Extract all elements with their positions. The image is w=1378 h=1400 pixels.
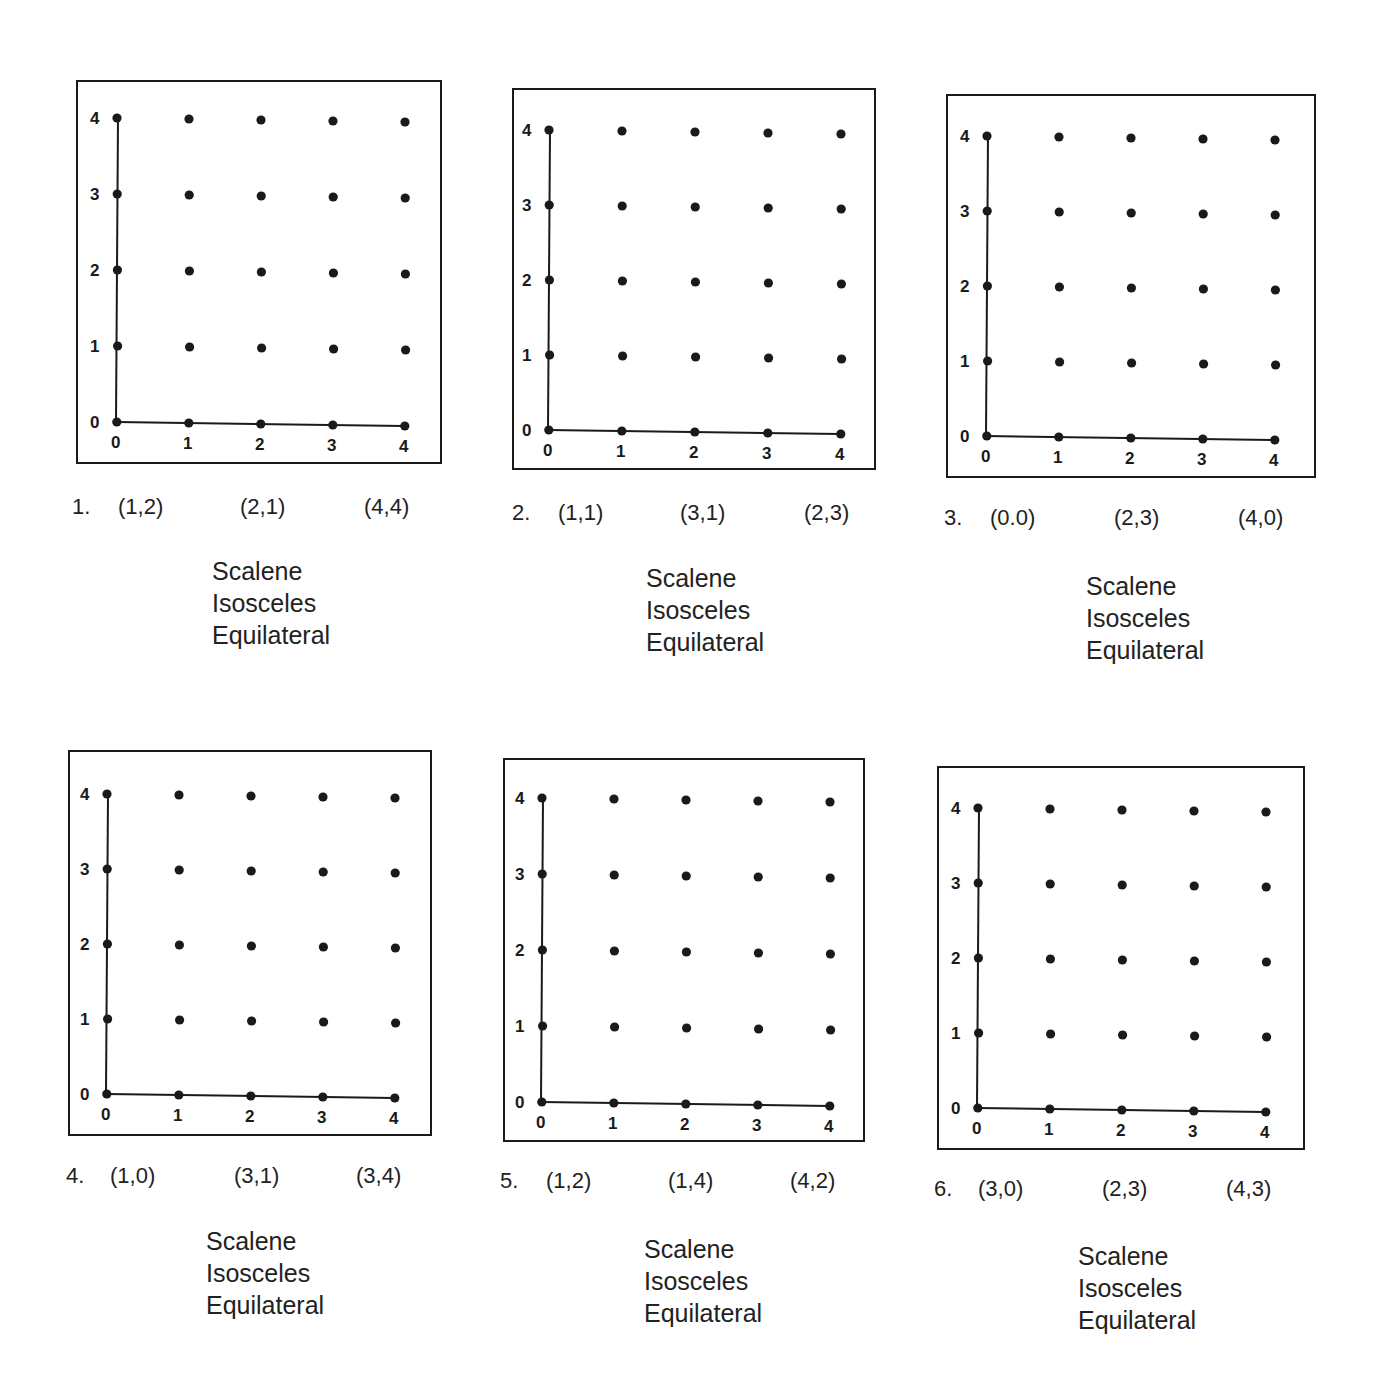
grid-dot[interactable] bbox=[328, 420, 337, 429]
grid-dot[interactable] bbox=[1127, 358, 1136, 367]
grid-dot[interactable] bbox=[257, 343, 266, 352]
grid-dot[interactable] bbox=[1054, 432, 1063, 441]
grid-dot[interactable] bbox=[836, 429, 845, 438]
grid-dot[interactable] bbox=[753, 1100, 762, 1109]
grid-dot[interactable] bbox=[545, 200, 554, 209]
grid-dot[interactable] bbox=[174, 1090, 183, 1099]
grid-dot[interactable] bbox=[609, 1098, 618, 1107]
grid-dot[interactable] bbox=[175, 1015, 184, 1024]
choice-scalene[interactable]: Scalene bbox=[644, 1233, 762, 1265]
grid-dot[interactable] bbox=[544, 125, 553, 134]
grid-dot[interactable] bbox=[1046, 1029, 1055, 1038]
grid-dot[interactable] bbox=[754, 948, 763, 957]
grid-dot[interactable] bbox=[246, 791, 255, 800]
grid-dot[interactable] bbox=[618, 276, 627, 285]
grid-dot[interactable] bbox=[610, 1022, 619, 1031]
grid-dot[interactable] bbox=[329, 344, 338, 353]
grid-dot[interactable] bbox=[1118, 1030, 1127, 1039]
grid-dot[interactable] bbox=[184, 418, 193, 427]
grid-dot[interactable] bbox=[826, 873, 835, 882]
grid-dot[interactable] bbox=[983, 206, 992, 215]
grid-dot[interactable] bbox=[1199, 359, 1208, 368]
grid-dot[interactable] bbox=[1271, 285, 1280, 294]
grid-dot[interactable] bbox=[1199, 284, 1208, 293]
grid-dot[interactable] bbox=[544, 425, 553, 434]
grid-dot[interactable] bbox=[1270, 435, 1279, 444]
grid-dot[interactable] bbox=[682, 871, 691, 880]
grid-dot[interactable] bbox=[690, 127, 699, 136]
choice-equilateral[interactable]: Equilateral bbox=[212, 619, 330, 651]
grid-dot[interactable] bbox=[682, 947, 691, 956]
grid-dot[interactable] bbox=[329, 268, 338, 277]
grid-dot[interactable] bbox=[837, 279, 846, 288]
grid-dot[interactable] bbox=[754, 872, 763, 881]
choice-isosceles[interactable]: Isosceles bbox=[206, 1257, 324, 1289]
grid-dot[interactable] bbox=[690, 427, 699, 436]
grid-dot[interactable] bbox=[617, 126, 626, 135]
grid-dot[interactable] bbox=[328, 116, 337, 125]
grid-dot[interactable] bbox=[257, 267, 266, 276]
choice-isosceles[interactable]: Isosceles bbox=[1078, 1272, 1196, 1304]
grid-dot[interactable] bbox=[763, 428, 772, 437]
grid-dot[interactable] bbox=[246, 1091, 255, 1100]
grid-dot[interactable] bbox=[1045, 1104, 1054, 1113]
grid-dot[interactable] bbox=[974, 953, 983, 962]
grid-dot[interactable] bbox=[391, 1018, 400, 1027]
choice-scalene[interactable]: Scalene bbox=[206, 1225, 324, 1257]
grid-dot[interactable] bbox=[973, 803, 982, 812]
grid-dot[interactable] bbox=[318, 792, 327, 801]
grid-dot[interactable] bbox=[318, 1092, 327, 1101]
grid-dot[interactable] bbox=[1270, 135, 1279, 144]
grid-dot[interactable] bbox=[1198, 434, 1207, 443]
grid-dot[interactable] bbox=[319, 942, 328, 951]
choice-scalene[interactable]: Scalene bbox=[212, 555, 330, 587]
grid-dot[interactable] bbox=[1262, 1032, 1271, 1041]
grid-dot[interactable] bbox=[1046, 879, 1055, 888]
grid-dot[interactable] bbox=[681, 795, 690, 804]
grid-dot[interactable] bbox=[1117, 1105, 1126, 1114]
grid-dot[interactable] bbox=[618, 351, 627, 360]
choice-scalene[interactable]: Scalene bbox=[1078, 1240, 1196, 1272]
grid-dot[interactable] bbox=[1199, 209, 1208, 218]
grid-dot[interactable] bbox=[1189, 1106, 1198, 1115]
grid-dot[interactable] bbox=[764, 353, 773, 362]
grid-dot[interactable] bbox=[247, 1016, 256, 1025]
grid-dot[interactable] bbox=[1055, 282, 1064, 291]
grid-dot[interactable] bbox=[1271, 360, 1280, 369]
grid-dot[interactable] bbox=[391, 943, 400, 952]
grid-dot[interactable] bbox=[826, 1025, 835, 1034]
choice-equilateral[interactable]: Equilateral bbox=[1078, 1304, 1196, 1336]
grid-dot[interactable] bbox=[1262, 882, 1271, 891]
grid-dot[interactable] bbox=[184, 114, 193, 123]
grid-dot[interactable] bbox=[1126, 433, 1135, 442]
grid-dot[interactable] bbox=[1117, 805, 1126, 814]
grid-dot[interactable] bbox=[1054, 132, 1063, 141]
grid-dot[interactable] bbox=[102, 1089, 111, 1098]
grid-dot[interactable] bbox=[974, 878, 983, 887]
grid-dot[interactable] bbox=[538, 945, 547, 954]
grid-dot[interactable] bbox=[825, 797, 834, 806]
grid-dot[interactable] bbox=[319, 1017, 328, 1026]
grid-dot[interactable] bbox=[1198, 134, 1207, 143]
grid-dot[interactable] bbox=[610, 870, 619, 879]
grid-dot[interactable] bbox=[837, 204, 846, 213]
grid-dot[interactable] bbox=[256, 115, 265, 124]
grid-dot[interactable] bbox=[185, 266, 194, 275]
grid-dot[interactable] bbox=[400, 117, 409, 126]
grid-dot[interactable] bbox=[617, 426, 626, 435]
grid-dot[interactable] bbox=[1055, 207, 1064, 216]
grid-dot[interactable] bbox=[837, 354, 846, 363]
grid-dot[interactable] bbox=[1189, 806, 1198, 815]
grid-dot[interactable] bbox=[401, 193, 410, 202]
grid-dot[interactable] bbox=[545, 350, 554, 359]
grid-dot[interactable] bbox=[983, 356, 992, 365]
grid-dot[interactable] bbox=[1190, 881, 1199, 890]
choice-isosceles[interactable]: Isosceles bbox=[212, 587, 330, 619]
grid-dot[interactable] bbox=[1262, 957, 1271, 966]
choice-equilateral[interactable]: Equilateral bbox=[646, 626, 764, 658]
grid-dot[interactable] bbox=[390, 793, 399, 802]
grid-dot[interactable] bbox=[538, 1021, 547, 1030]
grid-dot[interactable] bbox=[753, 796, 762, 805]
grid-dot[interactable] bbox=[400, 421, 409, 430]
grid-dot[interactable] bbox=[545, 275, 554, 284]
